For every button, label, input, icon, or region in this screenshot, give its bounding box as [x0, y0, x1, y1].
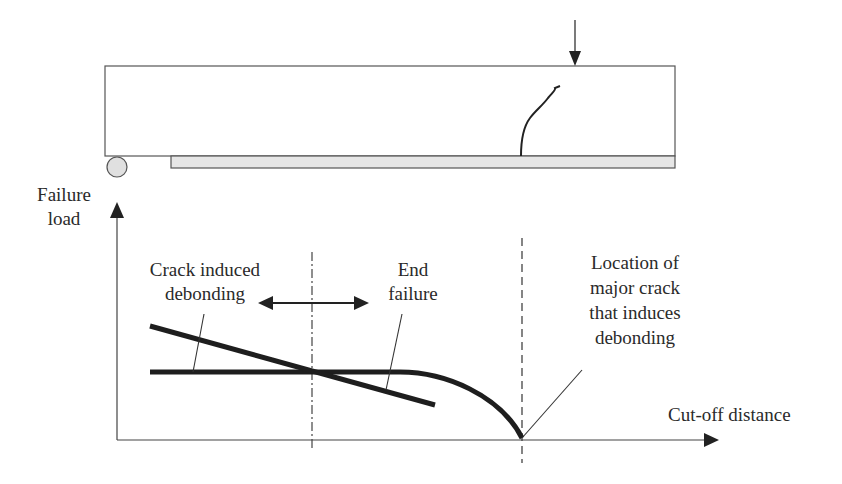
end-failure-leader: [386, 314, 402, 390]
end-failure-label-line1: End: [375, 258, 451, 282]
crack-induced-label-line2: debonding: [135, 282, 275, 306]
x-axis-label: Cut-off distance: [668, 403, 818, 427]
crack-induced-debonding-label: Crack induced debonding: [135, 258, 275, 306]
y-axis-label: Failure load: [28, 183, 100, 231]
crack-location-label-line4: debonding: [570, 325, 700, 350]
end-failure-label-line2: failure: [375, 282, 451, 306]
crack-location-label-line2: major crack: [570, 275, 700, 300]
crack-location-label-line1: Location of: [570, 250, 700, 275]
end-failure-label: End failure: [375, 258, 451, 306]
crack-location-label: Location of major crack that induces deb…: [570, 250, 700, 350]
beam: [105, 66, 675, 156]
y-axis-label-line2: load: [28, 207, 100, 231]
crack-location-leader: [522, 370, 582, 438]
crack-location-label-line3: that induces: [570, 300, 700, 325]
y-axis: [110, 202, 124, 440]
bonded-plate: [171, 156, 675, 168]
crack-induced-label-line1: Crack induced: [135, 258, 275, 282]
x-axis: [117, 433, 719, 447]
y-axis-label-line1: Failure: [28, 183, 100, 207]
crack-induced-debonding-curve: [150, 372, 522, 438]
roller-support-icon: [107, 157, 127, 177]
end-failure-line: [150, 326, 435, 405]
point-load-arrow-icon: [569, 20, 581, 66]
